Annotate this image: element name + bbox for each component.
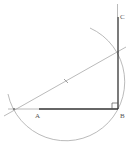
label-c: C <box>120 13 125 21</box>
intersection-point-right <box>117 51 119 53</box>
right-angle-marker <box>112 103 118 109</box>
oblique-construction-line <box>4 47 126 116</box>
midpoint-tick <box>64 79 68 83</box>
construction-arc <box>8 28 125 141</box>
geometry-figure: A B C <box>0 0 132 147</box>
label-a: A <box>35 112 40 120</box>
label-b: B <box>120 112 125 120</box>
intersection-point-left <box>13 108 15 110</box>
